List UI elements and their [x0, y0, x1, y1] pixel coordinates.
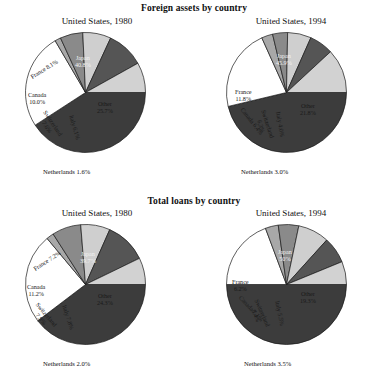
slice-label-other: Other21.8%: [300, 102, 316, 117]
slice-label-japan: Japan39.7%: [80, 250, 96, 265]
chart-foreign-assets-1980: United States, 1980 Japan40.8% Other25.7…: [0, 16, 194, 186]
slice-label-netherlands: Netherlands 2.0%: [43, 360, 90, 367]
slice-label-netherlands: Netherlands 1.6%: [43, 168, 90, 175]
chart-foreign-assets-1994: United States, 1994 Japan45.9% Other21.8…: [194, 16, 388, 186]
pie-slice-japan: [227, 285, 347, 345]
slice-label-canada: Canada10.0%: [28, 91, 46, 106]
panel-title-foreign-assets: Foreign assets by country: [0, 3, 388, 13]
slice-label-japan: Japan50%: [278, 248, 292, 263]
panel-foreign-assets: Foreign assets by country United States,…: [0, 0, 388, 190]
slice-label-other: Other24.3%: [97, 292, 113, 307]
chart-title: United States, 1980: [0, 16, 194, 26]
slice-label-france: France6.2%: [232, 278, 249, 293]
panel-title-total-loans: Total loans by country: [0, 196, 388, 206]
chart-total-loans-1994: United States, 1994 Japan50% Other19.3% …: [194, 208, 388, 378]
slice-label-netherlands: Netherlands 3.5%: [244, 360, 291, 367]
slice-label-other: Other25.7%: [97, 100, 113, 115]
chart-title: United States, 1994: [194, 16, 388, 26]
slice-label-other: Other19.3%: [300, 290, 316, 305]
pie-wrap: Japan50% Other19.3% France6.2% Canada 7.…: [224, 222, 349, 347]
slice-label-japan: Japan45.9%: [276, 52, 292, 67]
panel-total-loans: Total loans by country United States, 19…: [0, 190, 388, 379]
slice-label-france: France11.8%: [235, 88, 252, 103]
pie-wrap: Japan39.7% Other24.3% France 7.2% Canada…: [23, 222, 148, 347]
pie-wrap: Japan45.9% Other21.8% France11.8% Canada…: [224, 30, 349, 155]
slice-label-japan: Japan40.8%: [75, 54, 91, 69]
chart-total-loans-1980: United States, 1980 Japan39.7% Other24.3…: [0, 208, 194, 378]
chart-title: United States, 1994: [194, 208, 388, 218]
slice-label-netherlands: Netherlands 3.0%: [241, 168, 288, 175]
chart-title: United States, 1980: [0, 208, 194, 218]
slice-label-canada: Canada11.2%: [27, 283, 45, 298]
pie-wrap: Japan40.8% Other25.7% France 8.1% Canada…: [23, 30, 148, 155]
